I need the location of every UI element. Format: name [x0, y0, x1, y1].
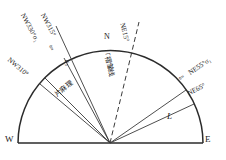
- rose-diagram-figure: W E N NW330°σ₁ NW315° NW310° NE15° NE55°…: [0, 0, 226, 160]
- ray-ne65: [110, 104, 194, 143]
- ray-ne55: [110, 90, 186, 143]
- label-lineation: L: [167, 111, 172, 121]
- label-east: E: [205, 134, 211, 144]
- label-west: W: [5, 134, 14, 144]
- diagram-canvas: [0, 0, 226, 160]
- ray-nw-inner: [64, 58, 110, 143]
- label-north: N: [104, 32, 110, 41]
- ray-nw310: [40, 84, 110, 143]
